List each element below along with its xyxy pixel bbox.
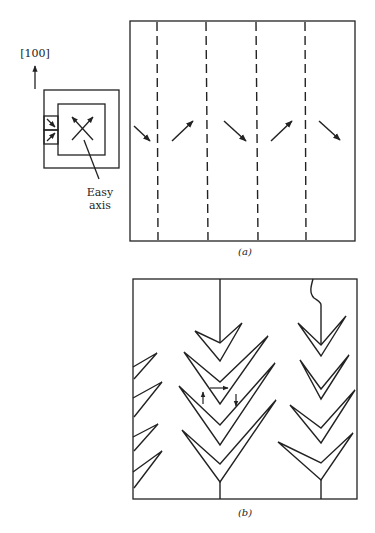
caption-a: (a) — [238, 246, 252, 257]
crystal-inset — [35, 66, 119, 179]
caption-b: (b) — [238, 507, 252, 518]
panel-a — [130, 21, 355, 241]
fir-tree-left — [133, 353, 162, 488]
panel-b — [133, 279, 357, 499]
direction-label: [100] — [20, 47, 50, 60]
fir-tree-right — [278, 279, 355, 499]
easy-axis-label-2: axis — [89, 199, 111, 212]
fir-tree-middle — [179, 279, 276, 499]
easy-axis-label: Easy — [87, 186, 114, 199]
domain-figure: Easy axis [100] (a) — [0, 0, 375, 533]
